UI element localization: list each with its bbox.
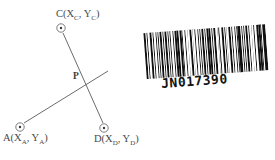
intersection-label-P: P [73,72,79,82]
segment-A-P-extended [24,71,108,123]
barcode-bars [143,24,270,79]
point-marker-A [16,123,24,131]
figure-canvas: C(XC, YC) A(XA, YA) D(XD, YD) P JN017390 [0,0,275,160]
point-label-A: A(XA, YA) [3,133,48,146]
point-label-C: C(XC, YC) [56,9,99,22]
point-marker-C [57,24,65,32]
point-label-D: D(XD, YD) [94,134,139,147]
point-marker-D [100,124,108,132]
barcode: JN017390 [143,24,271,95]
